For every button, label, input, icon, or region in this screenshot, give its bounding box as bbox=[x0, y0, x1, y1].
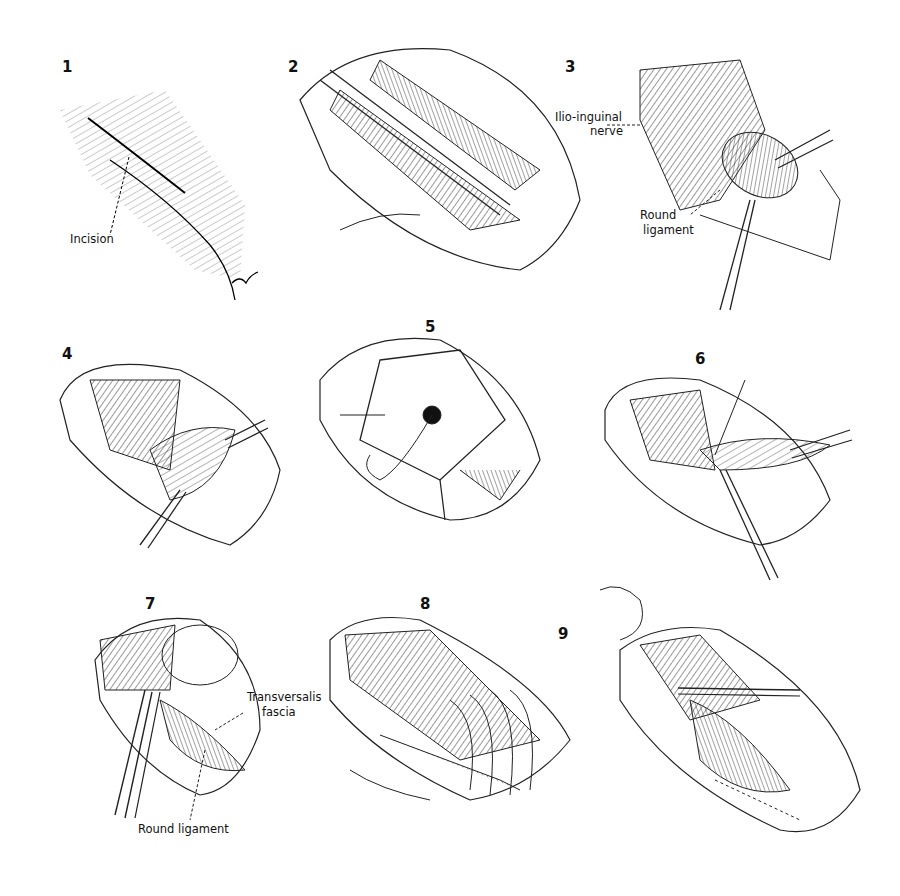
label-transversalis-fascia-line1: Transversalis bbox=[247, 690, 321, 704]
label-round-ligament-line1: Round bbox=[640, 208, 676, 222]
panel-7-drawing bbox=[95, 618, 260, 820]
label-ilio-inguinal-nerve-line2: nerve bbox=[590, 124, 623, 138]
panel-2-drawing bbox=[300, 49, 580, 270]
label-round-ligament-line2: ligament bbox=[643, 223, 694, 237]
label-round-ligament-panel7: Round ligament bbox=[138, 822, 229, 836]
panel-number-2: 2 bbox=[288, 58, 298, 76]
panel-4-drawing bbox=[60, 364, 280, 548]
panel-number-5: 5 bbox=[425, 318, 435, 336]
panel-6-drawing bbox=[605, 378, 852, 580]
panel-number-3: 3 bbox=[565, 58, 575, 76]
panel-3-drawing bbox=[605, 60, 840, 310]
panel-8-drawing bbox=[330, 618, 570, 801]
panel-number-8: 8 bbox=[420, 595, 430, 613]
panel-number-4: 4 bbox=[62, 345, 72, 363]
panel-1-drawing bbox=[60, 90, 258, 300]
panel-number-7: 7 bbox=[145, 595, 155, 613]
label-incision: Incision bbox=[70, 232, 114, 246]
panel-5-drawing bbox=[320, 338, 540, 520]
panel-number-9: 9 bbox=[558, 625, 568, 643]
panel-number-1: 1 bbox=[62, 58, 72, 76]
label-transversalis-fascia-line2: fascia bbox=[262, 705, 296, 719]
panel-number-6: 6 bbox=[695, 350, 705, 368]
illustration-canvas bbox=[0, 0, 900, 896]
panel-9-drawing bbox=[600, 587, 860, 832]
label-ilio-inguinal-nerve-line1: Ilio-inguinal bbox=[555, 110, 622, 124]
